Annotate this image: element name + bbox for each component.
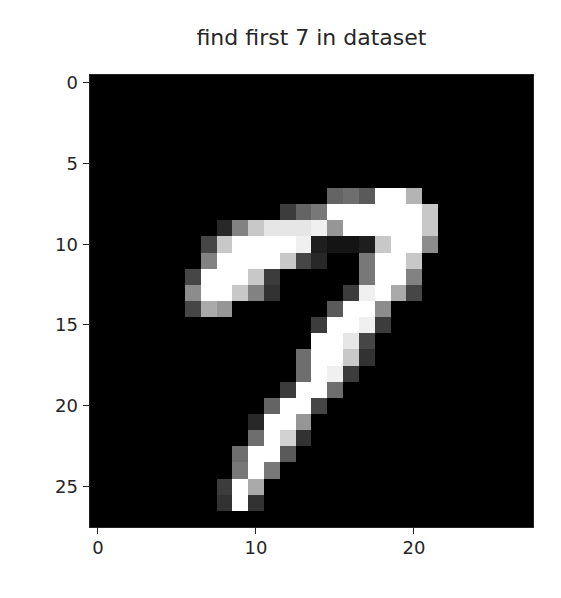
pixel-cell	[248, 382, 264, 398]
pixel-cell	[232, 107, 248, 123]
pixel-cell	[517, 317, 533, 333]
pixel-cell	[517, 253, 533, 269]
pixel-cell	[311, 479, 327, 495]
pixel-cell	[343, 253, 359, 269]
pixel-cell	[90, 91, 106, 107]
pixel-cell	[501, 285, 517, 301]
pixel-cell	[501, 188, 517, 204]
pixel-cell	[486, 382, 502, 398]
pixel-cell	[454, 414, 470, 430]
pixel-cell	[375, 172, 391, 188]
pixel-cell	[327, 253, 343, 269]
pixel-cell	[327, 349, 343, 365]
pixel-cell	[391, 479, 407, 495]
pixel-cell	[201, 317, 217, 333]
pixel-cell	[217, 349, 233, 365]
pixel-cell	[232, 253, 248, 269]
pixel-cell	[217, 172, 233, 188]
pixel-cell	[90, 75, 106, 91]
pixel-cell	[137, 140, 153, 156]
pixel-cell	[153, 75, 169, 91]
pixel-cell	[470, 236, 486, 252]
pixel-cell	[217, 285, 233, 301]
pixel-cell	[422, 156, 438, 172]
pixel-cell	[470, 317, 486, 333]
pixel-cell	[185, 495, 201, 511]
pixel-cell	[438, 75, 454, 91]
pixel-cell	[406, 188, 422, 204]
pixel-cell	[517, 172, 533, 188]
pixel-cell	[517, 430, 533, 446]
pixel-cell	[454, 236, 470, 252]
pixel-cell	[264, 366, 280, 382]
pixel-cell	[501, 446, 517, 462]
pixel-cell	[248, 462, 264, 478]
pixel-cell	[391, 91, 407, 107]
pixel-cell	[517, 204, 533, 220]
pixel-cell	[137, 366, 153, 382]
pixel-cell	[264, 253, 280, 269]
pixel-cell	[406, 349, 422, 365]
pixel-cell	[264, 107, 280, 123]
pixel-cell	[359, 333, 375, 349]
pixel-cell	[438, 172, 454, 188]
pixel-cell	[343, 172, 359, 188]
pixel-cell	[137, 349, 153, 365]
pixel-cell	[185, 156, 201, 172]
pixel-cell	[185, 140, 201, 156]
pixel-cell	[454, 269, 470, 285]
pixel-cell	[185, 317, 201, 333]
pixel-cell	[248, 188, 264, 204]
pixel-cell	[501, 462, 517, 478]
pixel-cell	[422, 107, 438, 123]
pixel-cell	[359, 123, 375, 139]
pixel-cell	[106, 107, 122, 123]
pixel-cell	[153, 317, 169, 333]
pixel-cell	[201, 382, 217, 398]
pixel-cell	[406, 479, 422, 495]
pixel-cell	[486, 107, 502, 123]
pixel-cell	[185, 446, 201, 462]
x-tick-label: 10	[236, 538, 276, 558]
pixel-cell	[264, 123, 280, 139]
pixel-cell	[217, 479, 233, 495]
pixel-cell	[90, 140, 106, 156]
pixel-cell	[501, 511, 517, 527]
pixel-cell	[153, 140, 169, 156]
pixel-cell	[90, 479, 106, 495]
pixel-cell	[232, 446, 248, 462]
pixel-cell	[280, 398, 296, 414]
pixel-cell	[122, 462, 138, 478]
pixel-cell	[248, 414, 264, 430]
pixel-cell	[406, 462, 422, 478]
pixel-cell	[137, 172, 153, 188]
pixel-cell	[296, 511, 312, 527]
pixel-cell	[248, 333, 264, 349]
pixel-cell	[422, 91, 438, 107]
pixel-cell	[391, 204, 407, 220]
pixel-cell	[169, 446, 185, 462]
pixel-cell	[153, 123, 169, 139]
pixel-cell	[486, 462, 502, 478]
pixel-cell	[422, 446, 438, 462]
pixel-cell	[454, 333, 470, 349]
pixel-cell	[311, 220, 327, 236]
pixel-cell	[201, 301, 217, 317]
pixel-cell	[201, 253, 217, 269]
pixel-cell	[311, 91, 327, 107]
pixel-cell	[169, 317, 185, 333]
pixel-cell	[486, 253, 502, 269]
pixel-cell	[438, 462, 454, 478]
pixel-cell	[391, 301, 407, 317]
y-tick-20: 20	[0, 396, 90, 416]
pixel-cell	[454, 479, 470, 495]
pixel-cell	[264, 285, 280, 301]
pixel-cell	[343, 236, 359, 252]
pixel-cell	[375, 220, 391, 236]
pixel-cell	[438, 253, 454, 269]
y-tick-mark	[83, 82, 90, 83]
pixel-cell	[375, 107, 391, 123]
pixel-cell	[217, 236, 233, 252]
pixel-cell	[185, 204, 201, 220]
pixel-cell	[454, 495, 470, 511]
